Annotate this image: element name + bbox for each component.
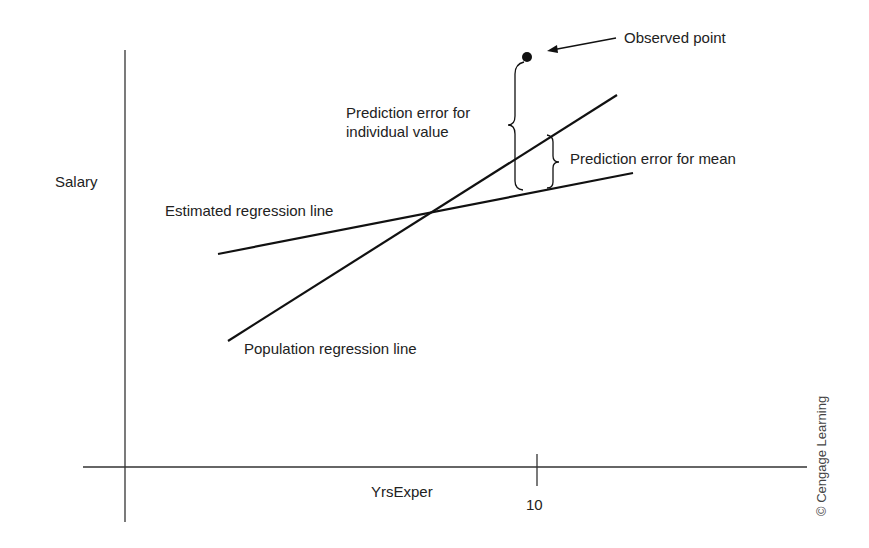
observed-point-arrow: [552, 38, 616, 50]
regression-diagram: Salary YrsExper 10 Observed point Predic…: [0, 0, 869, 548]
x-axis-label: YrsExper: [371, 483, 433, 500]
observed-point-dot: [522, 52, 532, 62]
arrow-head-icon: [547, 45, 558, 53]
individual-error-label-line1: Prediction error for: [346, 104, 470, 121]
y-axis-label: Salary: [55, 173, 98, 190]
population-line-label: Population regression line: [244, 340, 417, 357]
observed-point-label: Observed point: [624, 29, 727, 46]
mean-error-label: Prediction error for mean: [570, 150, 736, 167]
individual-error-brace: [508, 62, 524, 190]
copyright-notice: © Cengage Learning: [814, 396, 829, 516]
x-tick-label: 10: [526, 496, 543, 513]
mean-error-brace: [547, 135, 559, 188]
estimated-line-label: Estimated regression line: [165, 202, 333, 219]
individual-error-label-line2: individual value: [346, 123, 449, 140]
